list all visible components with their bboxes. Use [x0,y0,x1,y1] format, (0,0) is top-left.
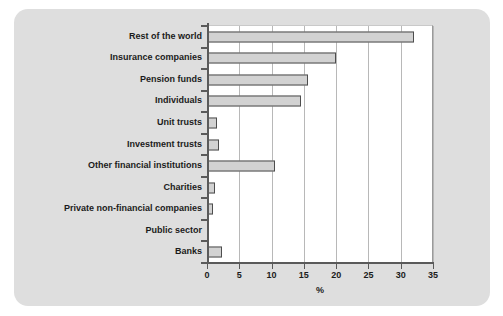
category-labels: Rest of the worldInsurance companiesPens… [0,0,202,262]
gridline-25 [368,26,369,263]
x-tick-label: 5 [237,270,242,280]
category-label: Insurance companies [110,52,202,62]
category-label: Public sector [145,225,202,235]
x-tick-label: 30 [396,270,406,280]
x-tick [239,264,240,269]
x-tick-label: 15 [299,270,309,280]
bar [207,247,222,258]
bar [207,74,308,85]
gridline-30 [401,26,402,263]
x-axis-title: % [316,285,324,295]
gridline-35 [433,26,434,263]
category-label: Banks [175,246,202,256]
y-axis-line [207,23,209,264]
x-tick [272,264,273,269]
x-tick [433,264,434,269]
category-label: Investment trusts [127,139,202,149]
category-label: Unit trusts [157,117,202,127]
category-label: Private non-financial companies [64,203,202,213]
category-label: Charities [163,182,202,192]
x-tick-label: 10 [267,270,277,280]
bar [207,31,414,42]
x-tick [336,264,337,269]
category-label: Other financial institutions [88,160,202,170]
category-label: Rest of the world [129,31,202,41]
chart-screenshot: Rest of the worldInsurance companiesPens… [0,0,503,316]
x-tick [368,264,369,269]
gridline-20 [336,26,337,263]
plot-area [207,25,433,262]
category-label: Individuals [155,95,202,105]
x-tick-label: 20 [331,270,341,280]
bar [207,53,336,64]
bar [207,161,275,172]
x-tick [401,264,402,269]
x-tick-label: 0 [204,270,209,280]
x-tick-label: 25 [363,270,373,280]
bar [207,96,301,107]
category-label: Pension funds [140,74,202,84]
x-tick [304,264,305,269]
x-tick-label: 35 [428,270,438,280]
x-tick [207,264,208,269]
